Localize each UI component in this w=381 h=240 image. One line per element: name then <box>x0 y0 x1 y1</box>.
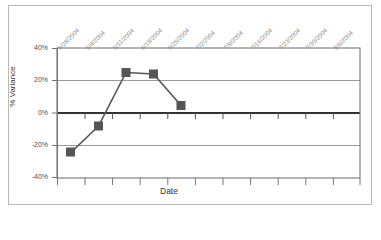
y-axis-title: % Variance <box>8 57 17 117</box>
x-axis-title: Date <box>160 186 178 196</box>
data-point <box>122 68 131 77</box>
y-tick-label: -40% <box>22 173 48 180</box>
y-tick-label: 20% <box>22 76 48 83</box>
data-point <box>66 148 75 157</box>
y-axis-ticks <box>52 49 57 178</box>
y-tick-label: -20% <box>22 141 48 148</box>
data-point <box>177 101 186 110</box>
data-point <box>94 122 103 131</box>
x-axis-ticks <box>58 178 361 185</box>
y-tick-label: 40% <box>22 44 48 51</box>
y-tick-label: 0% <box>22 109 48 116</box>
data-point <box>149 70 158 79</box>
